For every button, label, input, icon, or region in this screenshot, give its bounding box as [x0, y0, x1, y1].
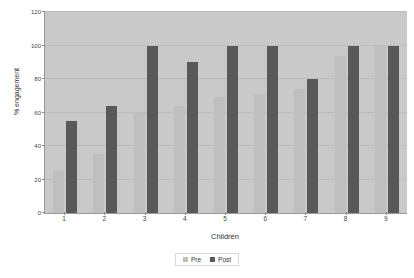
bar-group [206, 12, 246, 213]
bar-group [85, 12, 125, 213]
x-tick-mark [145, 212, 146, 215]
x-tick-mark [185, 212, 186, 215]
bar-post-4 [187, 62, 198, 213]
x-tick-mark [64, 212, 65, 215]
bar-group [246, 12, 286, 213]
bar-post-3 [147, 46, 158, 214]
y-tick-label: 20 [15, 177, 41, 183]
x-tick-label: 2 [84, 215, 124, 222]
x-tick-text: 9 [384, 215, 388, 222]
bar-post-2 [106, 106, 117, 213]
legend-item-pre[interactable]: Pre [183, 256, 201, 263]
x-tick-mark [265, 212, 266, 215]
x-tick-text: 6 [263, 215, 267, 222]
x-tick-mark [386, 212, 387, 215]
bar-post-8 [348, 46, 359, 214]
x-tick-text: 7 [304, 215, 308, 222]
x-tick-label: 1 [44, 215, 84, 222]
x-axis-ticks: 123456789 [44, 215, 406, 222]
y-tick-label: 80 [15, 76, 41, 82]
legend-label: Pre [191, 256, 201, 263]
x-tick-text: 1 [62, 215, 66, 222]
bar-group [166, 12, 206, 213]
x-tick-label: 6 [245, 215, 285, 222]
x-tick-text: 3 [143, 215, 147, 222]
x-tick-label: 7 [285, 215, 325, 222]
bar-pre-3 [134, 113, 145, 214]
legend-item-post[interactable]: Post [210, 256, 231, 263]
bar-post-5 [227, 46, 238, 214]
y-tick-label: 0 [15, 210, 41, 216]
y-axis-label: % engagement [13, 42, 20, 142]
x-tick-mark [225, 212, 226, 215]
bar-pre-5 [214, 97, 225, 213]
y-tick-label: 100 [15, 43, 41, 49]
x-tick-label: 4 [165, 215, 205, 222]
bar-group [367, 12, 407, 213]
bar-pre-2 [93, 154, 104, 213]
x-tick-label: 9 [366, 215, 406, 222]
x-tick-label: 3 [124, 215, 164, 222]
bar-post-7 [307, 79, 318, 213]
legend: PrePost [175, 253, 239, 266]
bar-pre-4 [174, 106, 185, 213]
bar-group [125, 12, 165, 213]
x-tick-mark [305, 212, 306, 215]
bar-group [327, 12, 367, 213]
x-tick-label: 5 [205, 215, 245, 222]
y-tick-label: 60 [15, 110, 41, 116]
bar-series-container [45, 12, 407, 213]
legend-swatch-icon [183, 257, 188, 262]
x-tick-text: 5 [223, 215, 227, 222]
x-tick-text: 2 [103, 215, 107, 222]
x-tick-text: 8 [344, 215, 348, 222]
legend-label: Post [218, 256, 231, 263]
bar-post-1 [66, 121, 77, 213]
bar-group [45, 12, 85, 213]
x-tick-mark [346, 212, 347, 215]
legend-swatch-icon [210, 257, 215, 262]
x-tick-label: 8 [326, 215, 366, 222]
y-tick-label: 40 [15, 143, 41, 149]
bar-chart: % engagement 020406080100120 123456789 C… [0, 0, 414, 278]
x-tick-text: 4 [183, 215, 187, 222]
bar-post-6 [267, 46, 278, 214]
y-tick-label: 120 [15, 9, 41, 15]
bar-pre-1 [53, 171, 64, 213]
x-tick-mark [104, 212, 105, 215]
bar-pre-8 [335, 56, 346, 213]
bar-group [286, 12, 326, 213]
bar-pre-7 [294, 89, 305, 213]
bar-pre-9 [375, 46, 386, 214]
bar-post-9 [388, 46, 399, 214]
bar-pre-6 [254, 94, 265, 213]
x-axis-label: Children [44, 232, 406, 241]
plot-area: 020406080100120 [44, 12, 407, 214]
